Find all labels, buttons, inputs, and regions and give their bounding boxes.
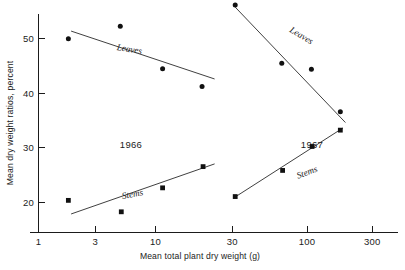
x-ticklabel-10: 10 — [150, 236, 161, 247]
data-point — [66, 36, 71, 41]
x-ticklabel-300: 300 — [364, 236, 380, 247]
data-point — [310, 144, 315, 149]
data-point — [279, 61, 284, 66]
series-leaves-1966 — [66, 24, 215, 89]
series-label-stems-1966: Stems — [121, 187, 144, 201]
series-label-stems-1967: Stems — [295, 164, 319, 181]
x-ticklabel-3: 3 — [93, 236, 98, 247]
fit-line — [235, 7, 345, 122]
series-leaves-1967 — [233, 2, 346, 122]
x-ticklabel-1: 1 — [36, 236, 41, 247]
chart-figure: 20 30 40 50 1 3 10 30 100 300 Mean dry w… — [0, 0, 405, 270]
data-point — [280, 168, 285, 173]
y-ticklabel-20: 20 — [23, 197, 34, 208]
y-ticklabel-30: 30 — [23, 142, 34, 153]
fit-line — [71, 31, 214, 79]
fit-line — [71, 164, 214, 214]
x-axis-title: Mean total plant dry weight (g) — [140, 251, 260, 261]
data-point — [338, 128, 343, 133]
y-ticklabel-40: 40 — [23, 88, 34, 99]
data-point — [200, 84, 205, 89]
chart-svg: 20 30 40 50 1 3 10 30 100 300 Mean dry w… — [0, 0, 405, 270]
series-label-leaves-1967: Leaves — [287, 24, 315, 46]
data-point — [201, 164, 206, 169]
panel-label-1966: 1966 — [120, 139, 142, 150]
data-point — [118, 24, 123, 29]
y-axis-title: Mean dry weight ratios, percent — [5, 60, 15, 185]
data-point — [233, 2, 238, 7]
y-ticklabel-50: 50 — [23, 33, 34, 44]
data-point — [119, 209, 124, 214]
series-stems-1967 — [233, 128, 343, 199]
data-point — [160, 66, 165, 71]
data-point — [338, 109, 343, 114]
fit-line — [234, 128, 343, 198]
data-point — [233, 194, 238, 199]
data-point — [160, 185, 165, 190]
x-ticklabel-100: 100 — [299, 236, 315, 247]
data-point — [309, 67, 314, 72]
data-point — [66, 198, 71, 203]
x-ticklabel-30: 30 — [227, 236, 238, 247]
